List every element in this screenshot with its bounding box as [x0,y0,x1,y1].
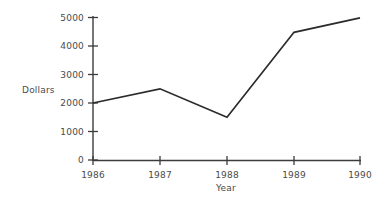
y-tick-label-0: 0 [54,156,84,165]
x-tick-label-1988: 1988 [215,171,239,180]
data-series-line [93,18,360,118]
x-tick-label-1990: 1990 [348,171,372,180]
y-tick-label-3000: 3000 [54,70,84,79]
y-axis-title: Dollars [22,86,55,95]
y-tick-label-5000: 5000 [54,14,84,23]
x-tick-label-1987: 1987 [148,171,172,180]
line-chart: 5000 4000 3000 2000 1000 0 1986 1987 198… [0,0,390,200]
x-axis-title: Year [216,184,236,193]
y-tick-label-2000: 2000 [54,99,84,108]
x-tick-label-1989: 1989 [282,171,306,180]
y-tick-label-4000: 4000 [54,42,84,51]
x-tick-label-1986: 1986 [81,171,105,180]
y-tick-label-1000: 1000 [54,127,84,136]
